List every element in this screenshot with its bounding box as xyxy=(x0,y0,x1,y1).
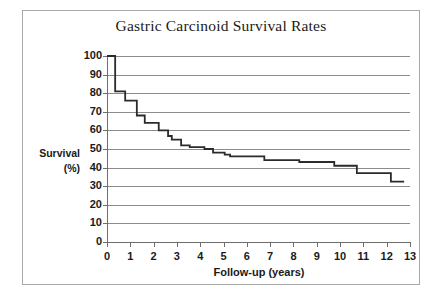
chart-screenshot: Gastric Carcinoid Survival Rates 0102030… xyxy=(0,0,443,298)
survival-curve xyxy=(0,0,443,298)
survival-step-line xyxy=(107,56,404,182)
